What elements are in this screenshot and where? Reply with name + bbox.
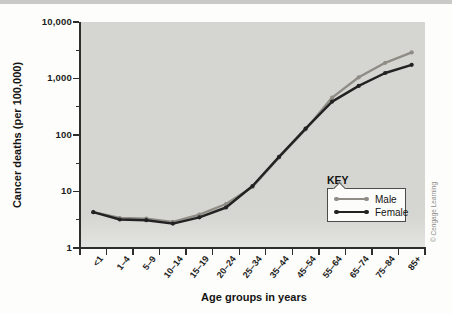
x-tick-label-text: 10–14	[161, 254, 184, 280]
x-tick	[424, 249, 425, 255]
legend-line-sample-icon	[335, 198, 368, 201]
data-point-female	[91, 210, 95, 214]
data-point-male	[357, 75, 361, 79]
legend-line-sample-icon	[335, 211, 368, 214]
y-minor-tick	[76, 163, 80, 164]
data-point-female	[330, 100, 334, 104]
data-point-male	[330, 96, 334, 100]
x-tick-label-text: 25–34	[241, 254, 264, 280]
x-axis-line	[79, 247, 426, 249]
legend-rows: MaleFemale	[335, 193, 405, 219]
y-minor-tick	[76, 219, 80, 220]
x-tick-label-text: 45–54	[294, 254, 317, 280]
data-point-female	[410, 63, 414, 67]
y-tick-label: 10,000	[26, 16, 72, 27]
x-tick	[398, 249, 399, 255]
x-axis-title: Age groups in years	[201, 291, 307, 303]
y-axis-line	[79, 22, 81, 249]
x-tick-label-text: 20–24	[215, 254, 238, 280]
data-point-female	[304, 127, 308, 131]
copyright-credit: © Cengage Learning	[430, 182, 437, 242]
data-point-female	[250, 184, 254, 188]
y-minor-tick	[76, 50, 80, 51]
y-tick-label: 10	[26, 185, 72, 196]
y-tick-label: 100	[26, 129, 72, 140]
cancer-deaths-by-age-chart: Cancer deaths (per 100,000) Age groups i…	[0, 0, 452, 314]
x-tick-label-text: 75–84	[374, 254, 397, 280]
y-major-tick	[73, 191, 79, 192]
y-major-tick	[73, 134, 79, 135]
data-point-female	[171, 222, 175, 226]
page-edge-strip	[0, 0, 452, 4]
x-tick-label-text: 55–64	[321, 254, 344, 280]
x-tick-label-text: 5–9	[141, 254, 158, 272]
x-tick	[318, 249, 319, 255]
x-tick-label-text: 1–4	[115, 254, 132, 272]
legend-item-label: Male	[375, 194, 397, 205]
x-tick	[159, 249, 160, 255]
x-tick	[371, 249, 372, 255]
y-major-tick	[73, 21, 79, 22]
y-major-tick	[73, 247, 79, 248]
data-point-female	[383, 71, 387, 75]
x-tick-label-text: 65–74	[347, 254, 370, 280]
legend-item-label: Female	[375, 207, 408, 218]
data-point-female	[277, 155, 281, 159]
x-tick	[185, 249, 186, 255]
data-point-female	[357, 84, 361, 88]
x-tick	[132, 249, 133, 255]
x-tick	[292, 249, 293, 255]
data-point-female	[197, 215, 201, 219]
x-tick-label-text: 35–44	[268, 254, 291, 280]
y-minor-tick	[76, 106, 80, 107]
y-axis-title: Cancer deaths (per 100,000)	[11, 62, 23, 208]
y-tick-label: 1,000	[26, 72, 72, 83]
y-tick-label: 1	[26, 242, 72, 253]
legend-item-female: Female	[335, 206, 405, 219]
x-tick	[212, 249, 213, 255]
x-tick	[79, 249, 80, 255]
x-tick	[265, 249, 266, 255]
data-point-male	[383, 61, 387, 65]
data-point-female	[224, 205, 228, 209]
x-tick	[345, 249, 346, 255]
x-tick-label-text: 85+	[406, 254, 423, 272]
legend-item-male: Male	[335, 193, 405, 206]
legend-box: MaleFemale	[327, 188, 406, 222]
x-tick	[106, 249, 107, 255]
y-major-tick	[73, 78, 79, 79]
data-point-female	[118, 217, 122, 221]
data-point-male	[410, 50, 414, 54]
data-point-female	[144, 218, 148, 222]
x-tick-label-text: 15–19	[188, 254, 211, 280]
x-tick-label-text: <1	[91, 254, 105, 268]
x-tick	[239, 249, 240, 255]
